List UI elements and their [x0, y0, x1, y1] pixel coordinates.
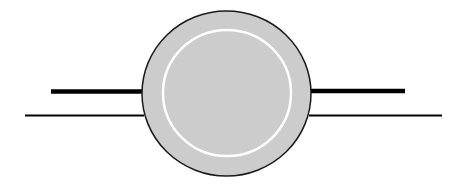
component-diagram	[0, 0, 464, 189]
outer-disc	[142, 11, 311, 176]
diagram-canvas	[0, 0, 464, 189]
